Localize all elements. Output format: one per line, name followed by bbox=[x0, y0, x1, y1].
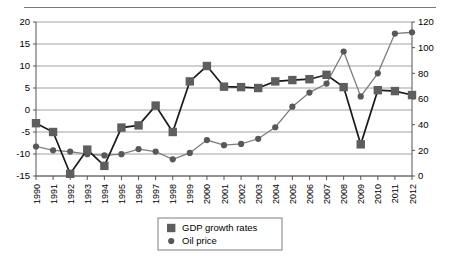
gridlines bbox=[36, 22, 412, 176]
data-point-marker bbox=[375, 70, 381, 76]
x-axis-tick-label: 1991 bbox=[49, 184, 59, 204]
left-axis-tick-label: 15 bbox=[19, 38, 30, 49]
data-point-marker bbox=[187, 150, 193, 156]
data-point-marker bbox=[237, 83, 245, 91]
x-axis: 1990199119921993199419951996199719981999… bbox=[32, 176, 418, 204]
legend-marker-square bbox=[167, 224, 175, 232]
series-line bbox=[36, 32, 412, 159]
left-axis-tick-label: 0 bbox=[25, 104, 30, 115]
data-point-marker bbox=[135, 146, 141, 152]
data-point-marker bbox=[322, 71, 330, 79]
legend: GDP growth ratesOil price bbox=[158, 218, 282, 250]
x-axis-tick-label: 1996 bbox=[134, 184, 144, 204]
right-axis-tick-label: 60 bbox=[418, 93, 429, 104]
x-axis-tick-label: 2002 bbox=[237, 184, 247, 204]
data-point-marker bbox=[170, 156, 176, 162]
chart-canvas: -15-10-505101520020406080100120199019911… bbox=[0, 0, 460, 257]
legend-label: Oil price bbox=[182, 235, 217, 246]
x-axis-tick-label: 1990 bbox=[32, 184, 42, 204]
x-axis-tick-label: 1998 bbox=[168, 184, 178, 204]
data-point-marker bbox=[323, 81, 329, 87]
data-point-marker bbox=[357, 140, 365, 148]
data-point-marker bbox=[66, 170, 74, 178]
left-axis-tick-label: -10 bbox=[16, 148, 30, 159]
x-axis-tick-label: 2007 bbox=[322, 184, 332, 204]
data-point-marker bbox=[186, 77, 194, 85]
data-point-marker bbox=[134, 121, 142, 129]
data-point-marker bbox=[221, 142, 227, 148]
x-axis-tick-label: 2000 bbox=[202, 184, 212, 204]
x-axis-tick-label: 2006 bbox=[305, 184, 315, 204]
left-axis-tick-label: -15 bbox=[16, 170, 30, 181]
data-point-marker bbox=[392, 30, 398, 36]
x-axis-tick-label: 1993 bbox=[83, 184, 93, 204]
data-point-marker bbox=[151, 101, 159, 109]
data-point-marker bbox=[391, 87, 399, 95]
data-point-marker bbox=[374, 86, 382, 94]
data-point-marker bbox=[272, 124, 278, 130]
legend-marker-circle bbox=[168, 238, 174, 244]
right-axis-tick-label: 0 bbox=[418, 170, 423, 181]
data-point-marker bbox=[33, 143, 39, 149]
data-point-marker bbox=[118, 151, 124, 157]
data-point-marker bbox=[289, 104, 295, 110]
x-axis-tick-label: 2011 bbox=[390, 184, 400, 203]
x-axis-tick-label: 2005 bbox=[288, 184, 298, 204]
data-point-marker bbox=[271, 77, 279, 85]
data-point-marker bbox=[255, 136, 261, 142]
x-axis-tick-label: 2009 bbox=[356, 184, 366, 204]
data-point-marker bbox=[153, 149, 159, 155]
data-point-marker bbox=[100, 162, 108, 170]
x-axis-tick-label: 2001 bbox=[220, 184, 230, 204]
data-point-marker bbox=[339, 83, 347, 91]
data-point-marker bbox=[203, 62, 211, 70]
left-axis-tick-label: -5 bbox=[22, 126, 30, 137]
data-point-marker bbox=[49, 128, 57, 136]
data-point-marker bbox=[220, 82, 228, 90]
data-point-marker bbox=[238, 141, 244, 147]
data-point-marker bbox=[32, 119, 40, 127]
x-axis-tick-label: 2012 bbox=[408, 184, 418, 204]
data-point-marker bbox=[101, 152, 107, 158]
data-point-marker bbox=[288, 76, 296, 84]
left-axis-tick-label: 20 bbox=[19, 16, 30, 27]
right-axis-tick-label: 120 bbox=[418, 16, 434, 27]
data-point-marker bbox=[50, 147, 56, 153]
x-axis-tick-label: 2008 bbox=[339, 184, 349, 204]
data-point-marker bbox=[341, 48, 347, 54]
x-axis-tick-label: 2003 bbox=[254, 184, 264, 204]
right-axis-tick-label: 80 bbox=[418, 68, 429, 79]
legend-label: GDP growth rates bbox=[182, 222, 258, 233]
right-axis-tick-label: 20 bbox=[418, 145, 429, 156]
series-gdp-growth bbox=[32, 62, 416, 178]
chart-figure: -15-10-505101520020406080100120199019911… bbox=[0, 0, 460, 257]
data-point-marker bbox=[358, 93, 364, 99]
left-axis-tick-label: 10 bbox=[19, 60, 30, 71]
left-axis-tick-label: 5 bbox=[25, 82, 30, 93]
data-point-marker bbox=[254, 84, 262, 92]
plot-area-wrapper: -15-10-505101520020406080100120199019911… bbox=[0, 0, 460, 257]
right-axis-tick-label: 100 bbox=[418, 42, 434, 53]
data-point-marker bbox=[408, 91, 416, 99]
data-point-marker bbox=[169, 128, 177, 136]
x-axis-tick-label: 1997 bbox=[151, 184, 161, 204]
data-point-marker bbox=[409, 29, 415, 35]
x-axis-tick-label: 1995 bbox=[117, 184, 127, 204]
data-point-marker bbox=[204, 137, 210, 143]
x-axis-tick-label: 2010 bbox=[373, 184, 383, 204]
x-axis-tick-label: 2004 bbox=[271, 184, 281, 204]
left-axis: -15-10-505101520 bbox=[16, 16, 36, 181]
data-point-marker bbox=[83, 145, 91, 153]
x-axis-tick-label: 1992 bbox=[66, 184, 76, 204]
right-axis-tick-label: 40 bbox=[418, 119, 429, 130]
data-point-marker bbox=[67, 149, 73, 155]
x-axis-tick-label: 1994 bbox=[100, 184, 110, 204]
data-point-marker bbox=[305, 75, 313, 83]
x-axis-tick-label: 1999 bbox=[185, 184, 195, 204]
data-point-marker bbox=[306, 89, 312, 95]
data-point-marker bbox=[117, 123, 125, 131]
